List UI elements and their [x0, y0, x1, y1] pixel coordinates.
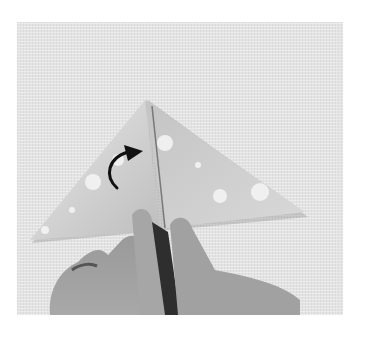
origami-photo — [17, 22, 343, 315]
paper-right-flap — [145, 100, 305, 228]
right-hand — [170, 218, 300, 315]
photo-content — [17, 22, 343, 315]
left-hand — [50, 236, 145, 315]
